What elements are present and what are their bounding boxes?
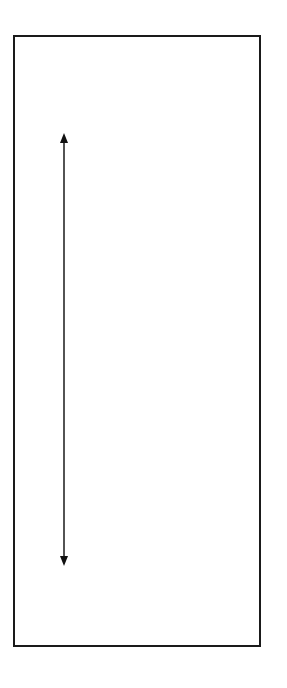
arrow-head-down-icon <box>60 556 68 566</box>
double-arrow-icon <box>0 0 287 688</box>
arrow-head-up-icon <box>60 133 68 143</box>
